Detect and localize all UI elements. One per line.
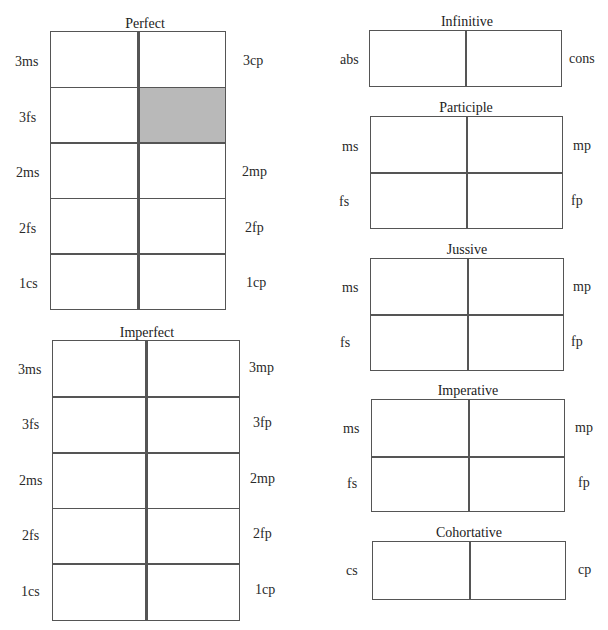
imperfect-cell-2fp[interactable] (148, 509, 238, 563)
imperfect-title: Imperfect (47, 326, 247, 340)
imperfect-cell-1cs[interactable] (53, 564, 145, 619)
perfect-cell-3ms[interactable] (51, 32, 137, 87)
participle-label-left: ms (342, 140, 358, 154)
infinitive-label-right: cons (569, 52, 595, 66)
jussive-label-left: fs (340, 336, 350, 350)
imperfect-cell-2ms[interactable] (53, 453, 145, 507)
perfect-cell-1cs[interactable] (51, 254, 137, 308)
infinitive-title: Infinitive (367, 15, 567, 29)
infinitive-label-left: abs (340, 53, 359, 67)
perfect-cell-3cp[interactable] (139, 32, 225, 87)
imperfect-grid (52, 340, 240, 621)
imperative-title: Imperative (368, 384, 568, 398)
jussive-label-left: ms (342, 281, 358, 295)
imperfect-cell-3ms[interactable] (53, 341, 145, 396)
jussive-title: Jussive (367, 243, 567, 257)
imperfect-label-left: 2fs (22, 529, 39, 543)
perfect-cell-2ms[interactable] (51, 143, 137, 197)
imperative-label-left: ms (343, 422, 359, 436)
participle-title: Participle (366, 101, 566, 115)
infinitive-grid (369, 30, 562, 87)
imperfect-cell-1cp[interactable] (148, 564, 238, 619)
perfect-label-right: 1cp (246, 276, 266, 290)
imperative-cell-mp[interactable] (470, 400, 563, 456)
cohortative-cell-cp[interactable] (471, 542, 564, 598)
perfect-label-left: 2ms (16, 166, 39, 180)
imperative-cell-fs[interactable] (372, 458, 468, 510)
imperfect-label-right: 1cp (255, 583, 275, 597)
imperative-label-right: fp (578, 476, 590, 490)
cohortative-label-right: cp (578, 563, 591, 577)
imperfect-label-right: 3fp (253, 416, 272, 430)
jussive-label-right: fp (571, 335, 583, 349)
participle-cell-fp[interactable] (468, 174, 561, 227)
imperfect-cell-2fs[interactable] (53, 509, 145, 563)
imperative-grid (371, 399, 565, 512)
imperative-cell-ms[interactable] (372, 400, 468, 456)
perfect-cell-2fp[interactable] (139, 199, 225, 253)
imperfect-label-right: 2fp (253, 527, 272, 541)
imperfect-label-right: 2mp (250, 472, 275, 486)
perfect-label-left: 3fs (19, 111, 36, 125)
imperfect-cell-3mp[interactable] (148, 341, 238, 396)
imperative-cell-fp[interactable] (470, 458, 563, 510)
jussive-label-right: mp (573, 280, 591, 294)
cohortative-title: Cohortative (369, 526, 569, 540)
participle-label-right: mp (573, 139, 591, 153)
participle-cell-fs[interactable] (371, 174, 466, 227)
perfect-label-right: 2mp (242, 165, 267, 179)
perfect-label-right: 2fp (245, 221, 264, 235)
perfect-label-left: 2fs (19, 222, 36, 236)
cohortative-grid (372, 541, 566, 600)
participle-grid (370, 116, 563, 229)
jussive-cell-fp[interactable] (469, 316, 562, 369)
jussive-grid (370, 258, 564, 371)
perfect-title: Perfect (45, 17, 245, 31)
imperfect-label-right: 3mp (249, 361, 274, 375)
perfect-cell-1cp[interactable] (139, 254, 225, 308)
imperfect-label-left: 2ms (19, 474, 42, 488)
infinitive-cell-cons[interactable] (467, 31, 560, 85)
jussive-cell-ms[interactable] (371, 259, 467, 314)
participle-label-left: fs (339, 195, 349, 209)
perfect-cell-3fs[interactable] (51, 88, 137, 142)
imperative-label-left: fs (347, 477, 357, 491)
participle-label-right: fp (571, 194, 583, 208)
imperfect-label-left: 1cs (21, 585, 40, 599)
perfect-label-right: 3cp (243, 54, 263, 68)
perfect-shaded-cell-3fs-right (138, 87, 225, 142)
imperfect-label-left: 3ms (18, 363, 41, 377)
perfect-label-left: 3ms (15, 55, 38, 69)
perfect-cell-2fs[interactable] (51, 199, 137, 253)
cohortative-cell-cs[interactable] (373, 542, 469, 598)
perfect-label-left: 1cs (19, 277, 38, 291)
imperfect-cell-3fs[interactable] (53, 398, 145, 452)
jussive-cell-fs[interactable] (371, 316, 467, 369)
imperative-label-right: mp (575, 421, 593, 435)
imperfect-label-left: 3fs (22, 418, 39, 432)
participle-cell-ms[interactable] (371, 117, 466, 172)
imperfect-cell-2mp[interactable] (148, 453, 238, 507)
jussive-cell-mp[interactable] (469, 259, 562, 314)
perfect-grid (50, 31, 226, 310)
infinitive-cell-abs[interactable] (370, 31, 465, 85)
perfect-cell-2mp[interactable] (139, 143, 225, 197)
imperfect-cell-3fp[interactable] (148, 398, 238, 452)
participle-cell-mp[interactable] (468, 117, 561, 172)
cohortative-label-left: cs (346, 564, 358, 578)
